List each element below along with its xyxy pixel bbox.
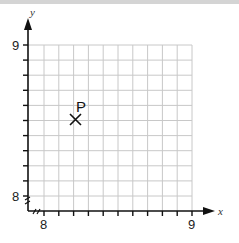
ticks — [23, 45, 192, 216]
y-axis-label: y — [29, 6, 35, 18]
axes — [24, 18, 215, 215]
x-tick-label-8: 8 — [40, 217, 47, 232]
coordinate-grid: y x 9 8 8 9 P — [0, 0, 239, 243]
y-axis-arrow-icon — [24, 18, 32, 30]
grid-lines — [28, 45, 192, 211]
point-p-label: P — [76, 98, 86, 115]
x-marker-icon — [70, 114, 81, 125]
y-tick-label-8: 8 — [12, 189, 19, 204]
x-axis-arrow-icon — [203, 207, 215, 215]
x-tick-label-9: 9 — [188, 217, 195, 232]
y-tick-label-9: 9 — [12, 38, 19, 53]
x-axis-label: x — [217, 205, 223, 217]
